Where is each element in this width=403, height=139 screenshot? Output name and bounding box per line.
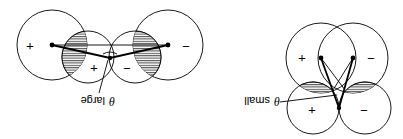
theta-symbol-small: θ bbox=[274, 94, 280, 108]
nucleus-top-right bbox=[351, 56, 356, 61]
nucleus-bottom bbox=[337, 106, 341, 110]
sign-bottom-left: + bbox=[308, 103, 316, 118]
theta-symbol-large: θ bbox=[109, 94, 115, 108]
sign-top-left: + bbox=[298, 51, 306, 66]
sign-outer-left: + bbox=[26, 39, 34, 54]
panel-theta-small: + − + − θ small bbox=[244, 23, 391, 134]
nucleus-top-left bbox=[319, 56, 324, 61]
angle-label-large: large bbox=[81, 95, 105, 107]
sign-bottom-right: − bbox=[360, 103, 368, 118]
panel-theta-large: + + − − θ large bbox=[17, 10, 203, 108]
angle-arc bbox=[103, 52, 117, 54]
nucleus-right bbox=[166, 43, 171, 48]
nucleus-center bbox=[108, 56, 112, 60]
sign-outer-right: − bbox=[182, 39, 190, 54]
sign-top-right: − bbox=[367, 51, 375, 66]
label-leader bbox=[99, 60, 108, 93]
sign-inner-left: + bbox=[90, 61, 98, 76]
angle-label-small: small bbox=[244, 95, 270, 107]
nucleus-left bbox=[50, 43, 55, 48]
sign-inner-right: − bbox=[123, 61, 131, 76]
orbital-overlap-diagram: + + − − θ large + − + − θ small bbox=[0, 0, 403, 139]
